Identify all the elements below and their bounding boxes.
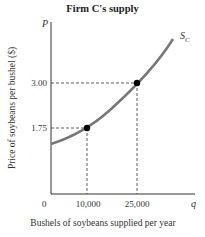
- x-tick-25000: 25,000: [125, 199, 150, 209]
- x-tick-10000: 10,000: [76, 199, 101, 209]
- curve-label: SC: [180, 30, 190, 44]
- origin-label: 0: [42, 199, 47, 209]
- x-axis-label: Bushels of soybeans supplied per year: [30, 218, 176, 228]
- y-tick-175: 1.75: [31, 123, 47, 133]
- supply-chart: P 3.00 1.75 0 10,000 25,000 q SC Bushels…: [0, 0, 205, 237]
- y-axis-label: Price of soybeans per bushel ($): [7, 47, 18, 169]
- y-tick-3: 3.00: [31, 78, 47, 88]
- supply-curve: [51, 39, 173, 144]
- point-25000: [134, 80, 140, 86]
- y-symbol: P: [41, 18, 48, 29]
- point-10000: [84, 125, 90, 131]
- x-symbol: q: [191, 198, 196, 209]
